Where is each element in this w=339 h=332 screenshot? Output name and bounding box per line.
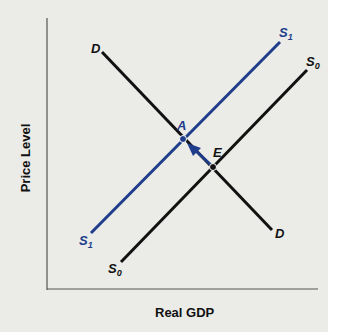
label-s0-bottom: S0 bbox=[108, 261, 122, 278]
point-a bbox=[180, 136, 187, 143]
label-s1-bottom: S1 bbox=[79, 233, 93, 250]
x-axis-title: Real GDP bbox=[155, 305, 215, 320]
demand-curve-d bbox=[102, 52, 272, 230]
point-e bbox=[210, 164, 217, 171]
label-point-a: A bbox=[176, 118, 186, 133]
y-axis-title: Price Level bbox=[18, 124, 33, 193]
shift-arrow-shaft bbox=[196, 151, 211, 165]
label-s0-top: S0 bbox=[306, 54, 320, 71]
label-s1-top: S1 bbox=[279, 25, 293, 42]
as-ad-diagram: D D S1 S0 S1 S0 A E Real GDP Price Level bbox=[0, 0, 339, 332]
label-point-e: E bbox=[213, 145, 222, 160]
label-d-top: D bbox=[91, 41, 101, 56]
label-d-bottom: D bbox=[275, 226, 285, 241]
